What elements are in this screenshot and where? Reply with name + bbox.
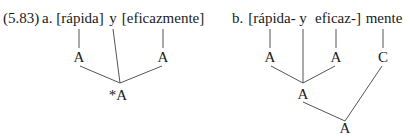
tree-a-node-left: A — [74, 50, 85, 65]
tree-b-word-rapida: [rápida- — [248, 11, 295, 26]
tree-a-node-root: *A — [109, 88, 127, 103]
tree-b-word-mente: mente — [366, 11, 403, 26]
tree-b-node-left: A — [265, 50, 276, 65]
example-number: (5.83) — [3, 11, 39, 26]
tree-b-node-mid: A — [331, 50, 342, 65]
tree-b-node-root: A — [340, 121, 351, 135]
tree-b-label: b. — [232, 11, 243, 26]
tree-a-word-rapida: [rápida] — [56, 11, 103, 26]
tree-a-node-right: A — [158, 50, 169, 65]
tree-a-word-y: y — [109, 11, 117, 26]
tree-b-word-eficaz: eficaz-] — [315, 11, 361, 26]
tree-b-word-y: y — [299, 11, 307, 26]
tree-a-label: a. — [42, 11, 52, 26]
tree-a-word-eficazmente: [eficazmente] — [122, 11, 204, 26]
tree-b-node-c: C — [378, 50, 388, 65]
tree-b-node-coord: A — [298, 87, 309, 102]
